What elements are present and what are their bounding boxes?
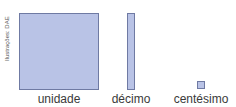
- hundredth-label: centésimo: [171, 92, 231, 106]
- unit-label: unidade: [19, 92, 99, 106]
- tenth-strip: [127, 13, 135, 90]
- illustration-credit-text: Ilustrações: DAE: [4, 13, 10, 61]
- tenth-label: décimo: [101, 92, 161, 106]
- unit-square: [19, 13, 99, 90]
- illustration-credit: Ilustrações: DAE: [4, 13, 14, 61]
- hundredth-square: [197, 81, 205, 89]
